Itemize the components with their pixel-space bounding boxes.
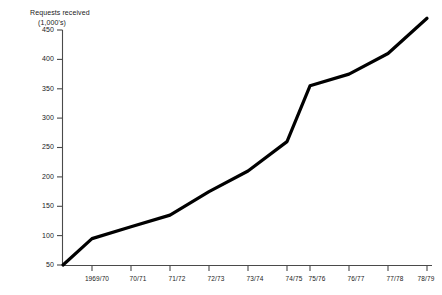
x-axis-ticks [92,266,427,272]
x-tick-1969-70: 1969/70 [77,275,117,282]
y-tick-450: 450 [28,26,54,33]
chart-plot-area [0,0,442,295]
data-series-line [63,18,427,265]
y-tick-250: 250 [28,143,54,150]
y-tick-300: 300 [28,114,54,121]
y-axis-ticks [57,30,63,265]
x-tick-73-74: 73/74 [235,275,275,282]
y-tick-100: 100 [28,232,54,239]
x-tick-76-77: 76/77 [336,275,376,282]
x-tick-77-78: 77/78 [375,275,415,282]
x-tick-72-73: 72/73 [196,275,236,282]
y-tick-350: 350 [28,85,54,92]
y-tick-400: 400 [28,55,54,62]
chart-container: Requests received (1,000's) [0,0,442,295]
y-tick-150: 150 [28,202,54,209]
y-tick-200: 200 [28,173,54,180]
x-tick-78-79: 78/79 [411,275,441,282]
y-tick-50: 50 [28,261,54,268]
x-tick-71-72: 71/72 [157,275,197,282]
x-tick-75-76: 75/76 [297,275,337,282]
x-tick-70-71: 70/71 [118,275,158,282]
